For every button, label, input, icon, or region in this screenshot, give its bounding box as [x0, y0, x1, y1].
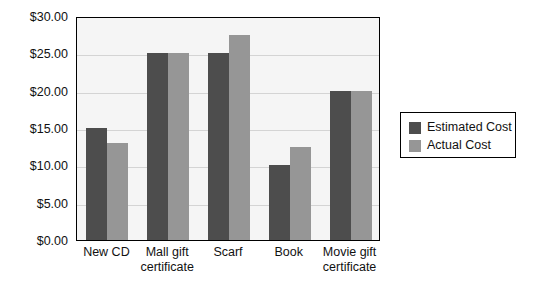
y-tick-label: $15.00 — [30, 123, 68, 135]
bar-actual-1 — [168, 53, 189, 240]
legend-item-actual-cost: Actual Cost — [409, 137, 515, 154]
legend-label-actual-cost: Actual Cost — [427, 139, 491, 152]
y-axis: $0.00$5.00$10.00$15.00$20.00$25.00$30.00 — [0, 0, 76, 294]
x-axis: New CDMall gift certificateScarfBookMovi… — [76, 245, 380, 291]
bar-estimated-1 — [147, 53, 168, 240]
x-category-label: Movie gift certificate — [311, 245, 388, 275]
y-tick-label: $25.00 — [30, 48, 68, 60]
bar-actual-2 — [229, 35, 250, 240]
bar-estimated-4 — [330, 91, 351, 240]
legend-swatch-actual-cost — [409, 140, 421, 152]
bar-actual-0 — [107, 143, 128, 240]
bar-estimated-2 — [208, 53, 229, 240]
bar-actual-4 — [351, 91, 372, 240]
bar-chart: $0.00$5.00$10.00$15.00$20.00$25.00$30.00… — [0, 0, 556, 294]
plot-area — [76, 17, 380, 241]
y-tick-label: $20.00 — [30, 86, 68, 98]
bar-estimated-3 — [269, 165, 290, 240]
y-tick-label: $10.00 — [30, 160, 68, 172]
chart-legend: Estimated Cost Actual Cost — [400, 112, 516, 158]
bar-actual-3 — [290, 147, 311, 240]
y-tick-label: $30.00 — [30, 11, 68, 23]
legend-label-estimated-cost: Estimated Cost — [427, 121, 512, 134]
legend-swatch-estimated-cost — [409, 122, 421, 134]
y-tick-label: $0.00 — [37, 235, 68, 247]
y-tick-label: $5.00 — [37, 198, 68, 210]
bar-estimated-0 — [86, 128, 107, 240]
legend-item-estimated-cost: Estimated Cost — [409, 119, 515, 136]
bars-layer — [77, 18, 379, 240]
